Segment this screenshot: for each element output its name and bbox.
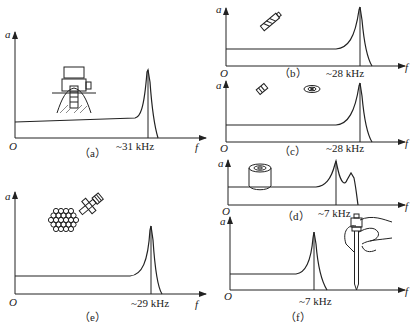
panel-e-sensor-icon-cluster <box>48 208 78 231</box>
panel-b-y-label: a <box>216 4 222 15</box>
panel-a-x-label: f <box>195 142 198 153</box>
panel-b-sensor-icon <box>260 11 281 30</box>
panel-e-x-label: f <box>195 299 198 310</box>
panel-a-caption: （a） <box>79 148 106 159</box>
panel-c-freq-label: ~28 kHz <box>326 143 364 154</box>
panel-e-caption: （e） <box>79 312 106 323</box>
panel-c <box>226 81 405 142</box>
panel-f-y-label: a <box>220 216 226 227</box>
panel-b-x-label: f <box>405 62 408 73</box>
panel-c-caption: （c） <box>279 146 306 157</box>
panel-c-sensor-icon-probe <box>256 83 268 94</box>
panel-b-origin-label: O <box>220 68 228 79</box>
panel-f-hand-probe-icon <box>345 214 392 290</box>
panel-d-y-label: a <box>218 158 224 169</box>
panel-b-freq-label: ~28 kHz <box>326 68 364 79</box>
panel-f-response-curve <box>230 232 327 290</box>
panel-c-sensor-icon-disc <box>304 86 320 93</box>
panel-f-freq-label: ~7 kHz <box>299 296 332 307</box>
panel-d-response-curve <box>228 161 358 205</box>
panel-f <box>230 214 405 290</box>
panel-c-y-label: a <box>216 80 222 91</box>
panel-e <box>15 190 206 294</box>
panel-f-caption: （f） <box>285 312 311 323</box>
panel-a-sensor-icon <box>52 67 96 113</box>
panel-d-freq-label: ~7 kHz <box>318 208 351 219</box>
panel-c-response-curve <box>226 83 372 142</box>
panel-d-x-label: f <box>405 201 408 212</box>
panel-a-y-label: a <box>5 29 11 40</box>
panel-d-caption: （d） <box>282 211 310 222</box>
panel-f-x-label: f <box>405 286 408 297</box>
panel-b <box>226 7 405 66</box>
panel-e-sensor-icon-stud <box>76 190 106 219</box>
panel-e-freq-label: ~29 kHz <box>131 298 169 309</box>
panel-f-origin-label: O <box>224 291 232 302</box>
panel-c-origin-label: O <box>220 143 228 154</box>
panel-e-y-label: a <box>5 191 11 202</box>
panel-a-origin-label: O <box>9 141 17 152</box>
panel-d <box>228 160 405 205</box>
panel-a-freq-label: ~31 kHz <box>116 141 154 152</box>
diagram-canvas <box>0 0 413 330</box>
panel-d-sensor-icon <box>249 164 271 190</box>
panel-e-response-curve <box>15 226 162 294</box>
panel-c-x-label: f <box>405 138 408 149</box>
panel-e-origin-label: O <box>9 297 17 308</box>
panel-b-response-curve <box>226 7 372 66</box>
panel-b-caption: （b） <box>279 68 307 79</box>
panel-a <box>15 32 206 138</box>
